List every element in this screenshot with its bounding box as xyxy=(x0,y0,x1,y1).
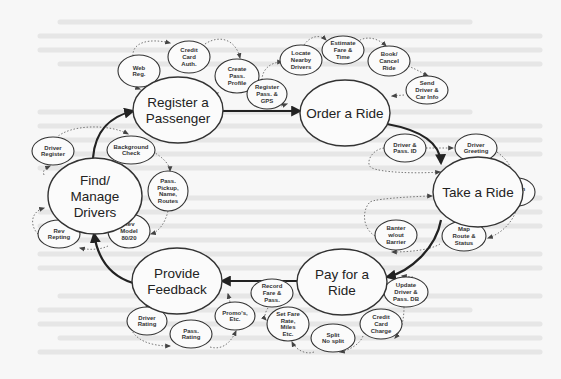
main-step-node-order[interactable]: Order a Ride xyxy=(300,80,390,146)
sub-step-node-take[interactable]: Driver &Pass. ID xyxy=(384,134,426,162)
diagram-canvas: WebReg.CreditCardAuth.CreatePass.Profile… xyxy=(0,0,561,379)
sub-step-node-order[interactable]: EstimateFare &Time xyxy=(322,36,364,64)
sub-step-label: Routes xyxy=(158,198,179,204)
sub-step-label: Ride xyxy=(382,65,396,71)
sub-step-label: Rating xyxy=(182,334,201,340)
sub-step-label: Pass. DB xyxy=(393,296,420,302)
sub-step-label: Fare & xyxy=(334,47,353,53)
sub-step-label: Promo's, xyxy=(222,310,248,316)
main-step-node-register[interactable]: Register aPassenger xyxy=(133,77,223,143)
sub-step-label: Pass. xyxy=(264,297,280,303)
sub-step-connector xyxy=(408,66,428,76)
sub-step-label: Card xyxy=(182,54,196,60)
sub-step-label: Record xyxy=(262,283,283,289)
sub-step-label: Time xyxy=(336,54,351,60)
main-step-label: Feedback xyxy=(147,282,207,297)
sub-step-label: Book/ xyxy=(381,51,398,57)
sub-step-label: Model xyxy=(120,228,138,234)
sub-step-label: Background xyxy=(113,144,148,150)
main-step-label: Ride xyxy=(328,283,356,298)
sub-step-label: No split xyxy=(322,338,344,344)
sub-step-label: Register xyxy=(255,84,280,90)
sub-step-label: Car Info xyxy=(416,94,439,100)
sub-step-label: Auth. xyxy=(181,61,197,67)
main-step-label: Passenger xyxy=(146,111,211,126)
sub-step-label: Charge xyxy=(371,328,392,334)
sub-step-label: Status xyxy=(455,240,474,246)
main-step-label: Provide xyxy=(154,266,200,281)
main-step-label: Manage xyxy=(71,189,120,204)
sub-step-label: Rev xyxy=(53,228,65,234)
sub-step-label: Credit xyxy=(372,314,389,320)
sub-step-label: Locate xyxy=(291,50,311,56)
sub-step-label: Etc. xyxy=(282,331,293,337)
sub-step-label: Pickup, xyxy=(157,185,179,191)
sub-step-label: Pass. xyxy=(160,178,176,184)
sub-step-node-drivers[interactable]: BackgroundCheck xyxy=(107,136,155,164)
sub-step-label: Rating xyxy=(138,321,157,327)
main-step-label: Register a xyxy=(147,95,209,110)
sub-step-label: Pass. xyxy=(183,328,199,334)
sub-step-label: Repting xyxy=(48,234,71,240)
sub-step-label: Card xyxy=(374,321,388,327)
main-step-label: Find/ xyxy=(80,173,110,188)
sub-step-label: Route & xyxy=(453,233,477,239)
sub-step-node-drivers[interactable]: Pass.Pickup,Name,Routes xyxy=(148,171,188,211)
sub-step-label: Profile xyxy=(228,80,247,86)
sub-step-node-order[interactable]: SendDriver &Car Info xyxy=(406,76,448,104)
sub-step-connector xyxy=(56,127,128,138)
sub-step-label: Driver & xyxy=(415,87,439,93)
sub-step-label: Drivers xyxy=(291,64,312,70)
main-step-label: Order a Ride xyxy=(306,106,383,121)
sub-step-label: Etc. xyxy=(229,316,240,322)
sub-step-label: Banter xyxy=(386,225,406,231)
sub-step-node-pay[interactable]: UpdateDriver &Pass. DB xyxy=(384,277,428,307)
sub-step-label: 80/20 xyxy=(121,235,137,241)
ride-sharing-cycle-diagram: WebReg.CreditCardAuth.CreatePass.Profile… xyxy=(0,0,561,379)
sub-step-node-feedback[interactable]: Promo's,Etc. xyxy=(215,302,255,330)
sub-step-label: Nearby xyxy=(291,57,312,63)
sub-step-connector xyxy=(80,246,108,249)
sub-step-label: Greeting xyxy=(464,148,489,154)
sub-step-label: GPS xyxy=(261,98,274,104)
sub-step-label: Check xyxy=(122,150,141,156)
sub-step-connector xyxy=(392,95,404,96)
sub-step-label: Barrier xyxy=(386,239,406,245)
sub-step-node-take[interactable]: Banterw/outBarrier xyxy=(375,220,417,250)
sub-step-label: Pass. ID xyxy=(393,148,417,154)
main-step-label: Pay for a xyxy=(315,267,370,282)
sub-step-node-drivers[interactable]: DriverRegister xyxy=(32,137,74,165)
main-step-ellipse xyxy=(132,248,222,314)
sub-step-label: Register xyxy=(41,151,66,157)
sub-step-node-pay[interactable]: Set FareRate,MilesEtc. xyxy=(267,307,309,341)
main-step-node-take[interactable]: Take a Ride xyxy=(433,157,523,227)
sub-step-node-feedback[interactable]: Pass.Rating xyxy=(170,320,212,348)
main-step-node-drivers[interactable]: Find/ManageDrivers xyxy=(48,158,142,234)
sub-step-node-order[interactable]: Book/CancelRide xyxy=(368,46,410,76)
main-step-ellipse xyxy=(297,249,387,315)
sub-step-label: Update xyxy=(396,282,417,288)
main-step-node-pay[interactable]: Pay for aRide xyxy=(297,249,387,315)
sub-step-node-register[interactable]: CreditCardAuth. xyxy=(168,41,210,73)
sub-step-label: Split xyxy=(327,332,340,338)
sub-step-label: Send xyxy=(420,80,435,86)
sub-step-label: Driver & xyxy=(393,142,417,148)
sub-step-label: Set Fare xyxy=(276,311,300,317)
sub-step-label: Driver xyxy=(467,142,485,148)
main-step-node-feedback[interactable]: ProvideFeedback xyxy=(132,248,222,314)
sub-step-label: Pass. xyxy=(229,73,245,79)
sub-step-node-order[interactable]: RegisterPass. &GPS xyxy=(247,79,287,109)
sub-step-node-order[interactable]: LocateNearbyDrivers xyxy=(280,45,322,75)
sub-step-node-pay[interactable]: RecordFare &Pass. xyxy=(251,279,293,307)
sub-step-label: Miles xyxy=(280,324,296,330)
sub-step-connector xyxy=(137,88,140,89)
sub-step-label: Map xyxy=(458,226,470,232)
sub-step-label: Driver xyxy=(44,145,62,151)
sub-step-node-pay[interactable]: SplitNo split xyxy=(311,324,355,352)
sub-step-label: Rate, xyxy=(281,318,296,324)
sub-step-label: Name, xyxy=(159,191,177,197)
sub-step-label: Pass. & xyxy=(256,91,278,97)
sub-step-node-pay[interactable]: CreditCardCharge xyxy=(360,309,402,339)
main-step-label: Drivers xyxy=(74,205,117,220)
sub-step-label: Create xyxy=(228,66,247,72)
